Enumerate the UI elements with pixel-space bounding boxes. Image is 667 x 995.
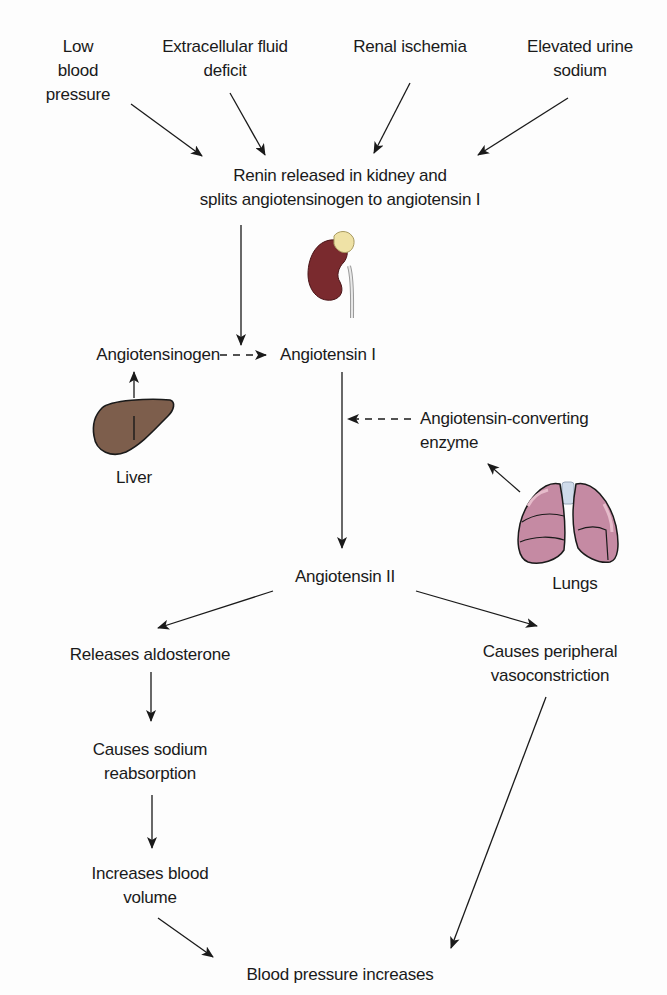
renin-release-step: Renin released in kidney and splits angi… <box>140 164 540 212</box>
arrow-vaso-to-bp <box>451 697 546 948</box>
arrow-ecf-to-renin <box>230 93 265 155</box>
liver-icon <box>90 396 178 462</box>
trigger-elevated-urine-sodium: Elevated urine sodium <box>505 35 655 83</box>
angiotensin-2-label: Angiotensin II <box>270 565 420 589</box>
arrow-ang2-right <box>416 591 537 626</box>
trigger-renal-ischemia: Renal ischemia <box>335 35 485 59</box>
kidney-icon <box>300 228 360 328</box>
arrow-lbp-to-renin <box>131 104 202 156</box>
arrow-sodium-to-renin <box>478 98 568 155</box>
lungs-icon <box>514 476 626 572</box>
angiotensin-1-label: Angiotensin I <box>280 343 400 367</box>
trigger-extracellular-fluid-deficit: Extracellular fluid deficit <box>140 35 310 83</box>
arrow-volume-to-bp <box>158 918 213 957</box>
releases-aldosterone-step: Releases aldosterone <box>30 643 270 667</box>
liver-label: Liver <box>90 466 178 490</box>
vasoconstriction-step: Causes peripheral vasoconstriction <box>460 640 640 688</box>
sodium-reabsorption-step: Causes sodium reabsorption <box>60 738 240 786</box>
arrow-ang2-left <box>158 591 273 628</box>
arrow-ischemia-to-renin <box>374 83 410 153</box>
trigger-low-blood-pressure: Low blood pressure <box>38 35 118 107</box>
blood-volume-step: Increases blood volume <box>60 862 240 910</box>
blood-pressure-increases-outcome: Blood pressure increases <box>200 963 480 987</box>
ace-label: Angiotensin-converting enzyme <box>420 407 660 455</box>
angiotensinogen-label: Angiotensinogen <box>20 343 220 367</box>
lungs-label: Lungs <box>535 572 615 596</box>
